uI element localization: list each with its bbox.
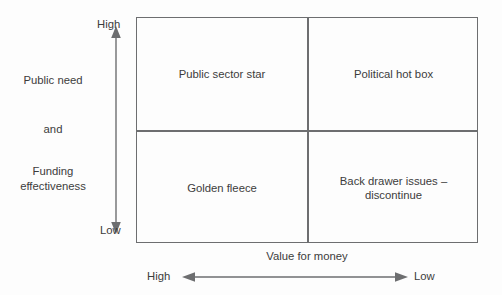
vertical-axis-label-line-2: and xyxy=(0,122,106,137)
quadrant-label-bottom-right: Back drawer issues – discontinue xyxy=(340,174,447,202)
vertical-axis-label-effectiveness: effectiveness xyxy=(20,180,86,192)
horizontal-axis-title: Value for money xyxy=(136,250,478,262)
vertical-axis-label-line-1: Public need xyxy=(0,73,106,88)
quadrant-label-bottom-left: Golden fleece xyxy=(187,181,257,195)
quadrant-golden-fleece: Golden fleece xyxy=(137,132,307,243)
horizontal-axis-high-cap: High xyxy=(147,270,170,282)
vertical-axis-arrow-icon xyxy=(106,26,126,234)
vertical-axis-high-cap: High xyxy=(97,18,120,30)
horizontal-axis-arrow-icon xyxy=(182,270,408,284)
quadrant-public-sector-star: Public sector star xyxy=(137,18,307,130)
quadrant-political-hot-box: Political hot box xyxy=(309,18,478,130)
public-value-matrix-diagram: Public sector star Political hot box Gol… xyxy=(0,0,502,295)
quadrant-label-bottom-right-line2: discontinue xyxy=(365,189,422,201)
vertical-axis-label-funding: Funding xyxy=(33,165,74,177)
quadrant-label-top-left: Public sector star xyxy=(179,67,266,81)
horizontal-axis-low-cap: Low xyxy=(414,270,435,282)
quadrant-label-top-right: Political hot box xyxy=(354,67,433,81)
vertical-axis-low-cap: Low xyxy=(100,224,121,236)
quadrant-back-drawer-issues: Back drawer issues – discontinue xyxy=(309,132,478,243)
vertical-axis-label-line-3: Funding effectiveness xyxy=(0,164,106,193)
quadrant-label-bottom-right-line1: Back drawer issues – xyxy=(340,175,447,187)
